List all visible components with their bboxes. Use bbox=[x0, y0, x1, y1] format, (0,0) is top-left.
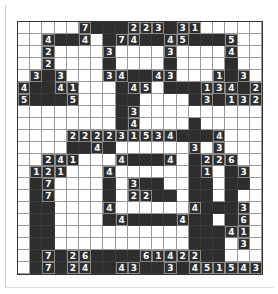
empty-cell[interactable] bbox=[55, 214, 67, 226]
filled-cell[interactable] bbox=[189, 166, 201, 178]
filled-cell[interactable] bbox=[213, 34, 225, 46]
empty-cell[interactable] bbox=[67, 238, 79, 250]
empty-cell[interactable] bbox=[18, 226, 30, 238]
empty-cell[interactable] bbox=[67, 202, 79, 214]
clue-cell[interactable]: 3 bbox=[30, 70, 42, 82]
filled-cell[interactable] bbox=[152, 154, 164, 166]
filled-cell[interactable] bbox=[213, 250, 225, 262]
empty-cell[interactable] bbox=[177, 226, 189, 238]
empty-cell[interactable] bbox=[177, 118, 189, 130]
filled-cell[interactable] bbox=[140, 70, 152, 82]
empty-cell[interactable] bbox=[67, 118, 79, 130]
empty-cell[interactable] bbox=[91, 238, 103, 250]
filled-cell[interactable] bbox=[189, 154, 201, 166]
clue-cell[interactable]: 4 bbox=[103, 202, 115, 214]
clue-cell[interactable]: 2 bbox=[67, 130, 79, 142]
filled-cell[interactable] bbox=[189, 34, 201, 46]
clue-cell[interactable]: 2 bbox=[67, 262, 79, 274]
empty-cell[interactable] bbox=[103, 226, 115, 238]
filled-cell[interactable] bbox=[116, 22, 128, 34]
filled-cell[interactable] bbox=[177, 130, 189, 142]
empty-cell[interactable] bbox=[177, 238, 189, 250]
empty-cell[interactable] bbox=[152, 58, 164, 70]
empty-cell[interactable] bbox=[140, 226, 152, 238]
empty-cell[interactable] bbox=[164, 238, 176, 250]
empty-cell[interactable] bbox=[201, 58, 213, 70]
empty-cell[interactable] bbox=[140, 94, 152, 106]
empty-cell[interactable] bbox=[55, 58, 67, 70]
clue-cell[interactable]: 4 bbox=[177, 214, 189, 226]
clue-cell[interactable]: 2 bbox=[250, 94, 262, 106]
empty-cell[interactable] bbox=[116, 190, 128, 202]
clue-cell[interactable]: 4 bbox=[152, 70, 164, 82]
empty-cell[interactable] bbox=[213, 166, 225, 178]
filled-cell[interactable] bbox=[42, 238, 54, 250]
empty-cell[interactable] bbox=[103, 94, 115, 106]
clue-cell[interactable]: 4 bbox=[189, 262, 201, 274]
empty-cell[interactable] bbox=[103, 106, 115, 118]
clue-cell[interactable]: 2 bbox=[67, 250, 79, 262]
empty-cell[interactable] bbox=[225, 130, 237, 142]
filled-cell[interactable] bbox=[103, 22, 115, 34]
empty-cell[interactable] bbox=[213, 106, 225, 118]
filled-cell[interactable] bbox=[140, 262, 152, 274]
empty-cell[interactable] bbox=[250, 250, 262, 262]
empty-cell[interactable] bbox=[152, 94, 164, 106]
empty-cell[interactable] bbox=[79, 238, 91, 250]
empty-cell[interactable] bbox=[164, 166, 176, 178]
empty-cell[interactable] bbox=[116, 202, 128, 214]
empty-cell[interactable] bbox=[225, 118, 237, 130]
filled-cell[interactable] bbox=[30, 262, 42, 274]
clue-cell[interactable]: 5 bbox=[225, 34, 237, 46]
empty-cell[interactable] bbox=[116, 46, 128, 58]
empty-cell[interactable] bbox=[18, 202, 30, 214]
filled-cell[interactable] bbox=[164, 22, 176, 34]
empty-cell[interactable] bbox=[213, 118, 225, 130]
clue-cell[interactable]: 3 bbox=[116, 130, 128, 142]
empty-cell[interactable] bbox=[250, 142, 262, 154]
empty-cell[interactable] bbox=[116, 178, 128, 190]
empty-cell[interactable] bbox=[201, 142, 213, 154]
clue-cell[interactable]: 4 bbox=[225, 46, 237, 58]
empty-cell[interactable] bbox=[79, 190, 91, 202]
empty-cell[interactable] bbox=[189, 46, 201, 58]
clue-cell[interactable]: 4 bbox=[189, 202, 201, 214]
empty-cell[interactable] bbox=[250, 190, 262, 202]
filled-cell[interactable] bbox=[103, 34, 115, 46]
clue-cell[interactable]: 3 bbox=[238, 94, 250, 106]
filled-cell[interactable] bbox=[55, 94, 67, 106]
empty-cell[interactable] bbox=[79, 118, 91, 130]
empty-cell[interactable] bbox=[18, 214, 30, 226]
empty-cell[interactable] bbox=[79, 82, 91, 94]
empty-cell[interactable] bbox=[250, 214, 262, 226]
filled-cell[interactable] bbox=[164, 82, 176, 94]
clue-cell[interactable]: 5 bbox=[140, 82, 152, 94]
clue-cell[interactable]: 4 bbox=[213, 130, 225, 142]
filled-cell[interactable] bbox=[201, 34, 213, 46]
empty-cell[interactable] bbox=[250, 34, 262, 46]
empty-cell[interactable] bbox=[238, 250, 250, 262]
clue-cell[interactable]: 2 bbox=[42, 154, 54, 166]
empty-cell[interactable] bbox=[18, 58, 30, 70]
empty-cell[interactable] bbox=[213, 178, 225, 190]
clue-cell[interactable]: 1 bbox=[201, 166, 213, 178]
empty-cell[interactable] bbox=[91, 106, 103, 118]
clue-cell[interactable]: 1 bbox=[30, 166, 42, 178]
empty-cell[interactable] bbox=[103, 154, 115, 166]
clue-cell[interactable]: 4 bbox=[103, 166, 115, 178]
empty-cell[interactable] bbox=[128, 166, 140, 178]
empty-cell[interactable] bbox=[140, 202, 152, 214]
clue-cell[interactable]: 2 bbox=[128, 22, 140, 34]
filled-cell[interactable] bbox=[42, 214, 54, 226]
filled-cell[interactable] bbox=[189, 118, 201, 130]
empty-cell[interactable] bbox=[55, 190, 67, 202]
filled-cell[interactable] bbox=[152, 178, 164, 190]
clue-cell[interactable]: 3 bbox=[164, 70, 176, 82]
filled-cell[interactable] bbox=[189, 178, 201, 190]
filled-cell[interactable] bbox=[42, 94, 54, 106]
empty-cell[interactable] bbox=[79, 94, 91, 106]
clue-cell[interactable]: 7 bbox=[116, 34, 128, 46]
clue-cell[interactable]: 5 bbox=[177, 34, 189, 46]
filled-cell[interactable] bbox=[116, 250, 128, 262]
empty-cell[interactable] bbox=[42, 130, 54, 142]
